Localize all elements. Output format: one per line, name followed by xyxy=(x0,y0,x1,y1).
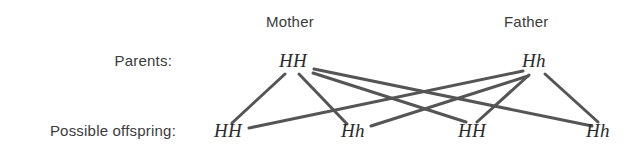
parent-genotype-mother: HH xyxy=(279,50,307,72)
column-header-father: Father xyxy=(504,13,549,30)
offspring-genotype-4: Hh xyxy=(586,120,610,142)
row-label-possible-offspring: Possible offspring: xyxy=(0,122,176,139)
parent-genotype-father: Hh xyxy=(522,50,546,72)
links-group xyxy=(232,69,598,128)
inheritance-line-father-to-offspring-2 xyxy=(371,76,528,126)
offspring-genotype-1: HH xyxy=(214,120,242,142)
column-header-mother: Mother xyxy=(266,13,314,30)
inheritance-line-mother-to-offspring-1 xyxy=(232,74,285,123)
inheritance-line-father-to-offspring-4 xyxy=(545,74,598,122)
offspring-genotype-2: Hh xyxy=(341,120,365,142)
genetics-cross-diagram: Mother Father Parents: Possible offsprin… xyxy=(0,0,633,154)
offspring-genotype-3: HH xyxy=(458,120,486,142)
row-label-parents: Parents: xyxy=(0,52,172,69)
inheritance-line-father-to-offspring-3 xyxy=(477,75,529,122)
